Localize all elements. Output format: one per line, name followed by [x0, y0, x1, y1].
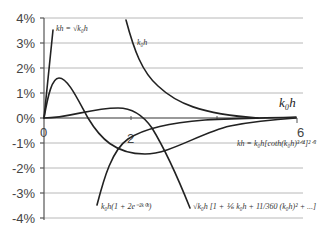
curve-k0h: [126, 20, 258, 118]
y-tick-4: 4%: [16, 11, 35, 26]
y-tick-minus-3: -3%: [12, 186, 36, 201]
chart: 4% 3% 2% 1% 0% -1% -2% -3% -4% 0 2 6 k₀h…: [0, 0, 317, 232]
curves: [44, 20, 296, 208]
y-tick-minus-2: -2%: [12, 161, 36, 176]
y-tick-minus-4: -4%: [12, 211, 36, 226]
label-exp: k₀h(1 + 2e⁻²ᵏ⁰ʰ): [101, 202, 152, 211]
y-tick-3: 3%: [16, 36, 35, 51]
x-tick-0: 0: [40, 125, 47, 140]
x-tick-6: 6: [297, 125, 304, 140]
label-k0h: k₀h: [137, 38, 147, 47]
x-axis-title: k₀h: [279, 95, 296, 110]
axes: [40, 18, 297, 220]
y-tick-2: 2%: [16, 61, 35, 76]
y-tick-minus-1: -1%: [12, 136, 36, 151]
label-series: √k₀h [1 + ⅙ k₀h + 11/360 (k₀h)² + ...]: [193, 202, 316, 211]
y-tick-1: 1%: [16, 86, 35, 101]
label-coth: kh = k₀h[coth(k₀h)³ᐟ⁴]²ᐟ³: [237, 139, 317, 148]
y-tick-0: 0%: [16, 111, 35, 126]
label-sqrt: kh = √k₀h: [56, 24, 88, 33]
y-tick-labels: 4% 3% 2% 1% 0% -1% -2% -3% -4%: [12, 11, 36, 226]
